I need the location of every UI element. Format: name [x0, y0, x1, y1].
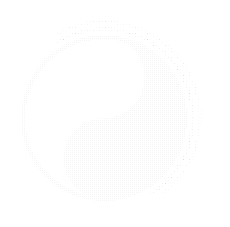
yin-yang-symbol [0, 0, 230, 227]
lower-dot [102, 151, 110, 159]
upper-dot [99, 83, 109, 93]
image-canvas: Yin Yang Symbol taijitu [0, 0, 230, 227]
